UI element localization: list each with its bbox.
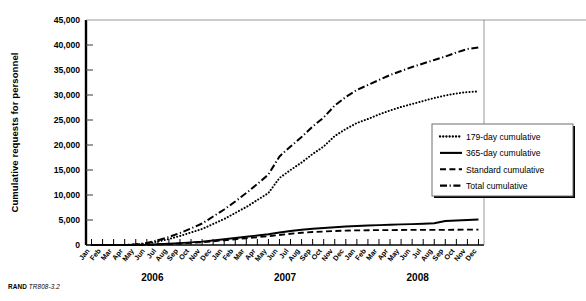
series-line — [92, 92, 479, 246]
chart-legend: 179-day cumulative365-day cumulativeStan… — [432, 124, 575, 198]
y-tick-label: 30,000 — [54, 90, 81, 100]
figure-credit: RAND TR808-3.2 — [8, 283, 60, 290]
x-axis-year-label: 2006 — [141, 272, 164, 283]
y-tick-label: 20,000 — [54, 140, 81, 150]
y-tick-label: 0 — [75, 240, 80, 250]
series-line — [92, 48, 479, 246]
y-tick-label: 15,000 — [54, 165, 81, 175]
y-tick-label: 35,000 — [54, 65, 81, 75]
y-tick-label: 45,000 — [54, 15, 81, 25]
figure-container: 05,00010,00015,00020,00025,00030,00035,0… — [0, 0, 586, 301]
line-chart: 05,00010,00015,00020,00025,00030,00035,0… — [0, 0, 586, 301]
y-tick-label: 25,000 — [54, 115, 81, 125]
y-axis-label-text: Cumulative requests for personnel — [9, 52, 20, 212]
data-series-group — [92, 48, 479, 246]
credit-id: TR808-3.2 — [29, 283, 60, 290]
credit-brand: RAND — [8, 283, 27, 290]
x-axis-year-label: 2008 — [407, 272, 430, 283]
x-axis-ticks: JanFebMarAprMayJunJulAugSepOctNovDecJanF… — [77, 239, 479, 263]
y-tick-label: 40,000 — [54, 40, 81, 50]
y-axis-label: Cumulative requests for personnel — [9, 52, 20, 212]
x-axis-year-label: 2007 — [274, 272, 297, 283]
series-line — [92, 220, 479, 246]
x-tick-label: Dec — [463, 247, 478, 263]
y-tick-label: 10,000 — [54, 190, 81, 200]
x-axis-year-groups: 200620072008 — [141, 272, 429, 283]
y-tick-label: 5,000 — [58, 215, 80, 225]
legend-label: Total cumulative — [466, 181, 528, 191]
legend-label: 179-day cumulative — [466, 132, 541, 142]
legend-label: 365-day cumulative — [466, 148, 541, 158]
legend-label: Standard cumulative — [466, 165, 545, 175]
